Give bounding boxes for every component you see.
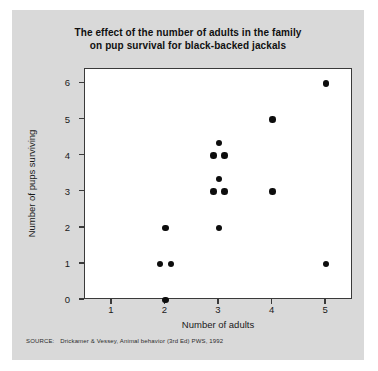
screenshot-root: { "figure": { "background_color": "#d9d9… [0, 0, 378, 371]
y-tick-label: 6 [44, 77, 70, 88]
y-tick-label: 1 [44, 257, 70, 268]
data-point [269, 116, 276, 123]
source-label: SOURCE: [26, 338, 54, 344]
data-point [162, 297, 169, 304]
y-axis-title: Number of pups surviving [26, 68, 40, 299]
x-tick-mark [271, 299, 273, 304]
source-note: SOURCE: Drickamer & Vessey, Animal behav… [26, 338, 223, 344]
chart-title-line-2: on pup survival for black-backed jackals [12, 39, 364, 52]
data-point [216, 225, 223, 232]
data-point [323, 80, 330, 87]
y-tick-label: 5 [44, 113, 70, 124]
x-tick-mark [110, 299, 112, 304]
data-point [210, 152, 217, 159]
chart-title: The effect of the number of adults in th… [12, 26, 364, 52]
y-tick-label: 3 [44, 185, 70, 196]
data-point [216, 140, 223, 147]
data-point [323, 261, 330, 268]
x-tick-label: 3 [208, 304, 228, 315]
data-point [157, 261, 164, 268]
data-point [221, 152, 228, 159]
y-tick-label: 0 [44, 294, 70, 305]
x-tick-label: 5 [315, 304, 335, 315]
data-point [221, 188, 228, 195]
chart-title-line-1: The effect of the number of adults in th… [12, 26, 364, 39]
data-point [168, 261, 175, 268]
figure-card: The effect of the number of adults in th… [12, 10, 364, 360]
x-tick-mark [217, 299, 219, 304]
x-tick-label: 4 [262, 304, 282, 315]
x-tick-label: 2 [154, 304, 174, 315]
scatter-plot-surface [85, 69, 351, 298]
data-point [269, 188, 276, 195]
data-point [210, 188, 217, 195]
data-point [216, 176, 223, 183]
data-point [162, 225, 169, 232]
x-tick-mark [324, 299, 326, 304]
y-tick-label: 2 [44, 221, 70, 232]
x-tick-label: 1 [101, 304, 121, 315]
x-axis-title: Number of adults [84, 319, 352, 330]
plot-frame [84, 68, 352, 299]
y-tick-label: 4 [44, 149, 70, 160]
source-text: Drickamer & Vessey, Animal behavior (3rd… [60, 338, 223, 344]
